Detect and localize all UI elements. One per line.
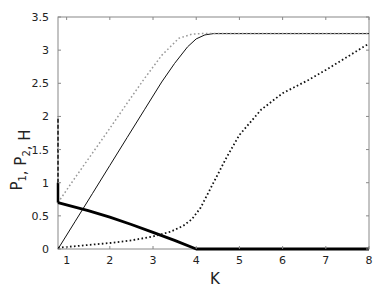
x-tick-label: 6: [279, 254, 286, 267]
x-axis-title: K: [210, 270, 221, 288]
y-axis-title: P1, P2, H: [8, 129, 34, 190]
chart: 12345678 00.511.522.533.5 K P1, P2, H: [0, 0, 391, 293]
y-tick-label: 0.5: [32, 210, 50, 223]
x-tick-label: 3: [150, 254, 157, 267]
y-tick-label: 1: [42, 177, 49, 190]
y-tick-label: 0: [42, 243, 49, 256]
y-tick-label: 1.5: [32, 144, 50, 157]
y-tick-label: 3.5: [32, 11, 50, 24]
x-tick-label: 4: [193, 254, 200, 267]
x-tick-label: 1: [63, 254, 70, 267]
series-layer: [58, 34, 369, 249]
y-tick-label: 2: [42, 110, 49, 123]
series-thick-solid: [58, 203, 369, 249]
x-tick-label: 8: [366, 254, 373, 267]
y-tick-label: 3: [42, 44, 49, 57]
y-axis-ticks: 00.511.522.533.5: [32, 11, 370, 256]
y-tick-label: 2.5: [32, 77, 50, 90]
x-tick-label: 5: [236, 254, 243, 267]
x-axis-ticks: 12345678: [63, 17, 372, 267]
x-tick-label: 2: [106, 254, 113, 267]
x-tick-label: 7: [322, 254, 329, 267]
series-grey-dotted: [58, 34, 369, 203]
